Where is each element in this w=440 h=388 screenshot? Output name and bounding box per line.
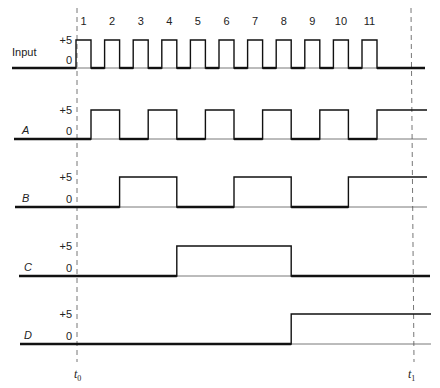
signals: Input+50A+50B+50C+50D+50: [12, 34, 431, 344]
signal-a: A+50: [14, 104, 427, 139]
level-high-label: +5: [59, 308, 72, 320]
pulse-number-3: 3: [138, 15, 144, 27]
pulse-number-1: 1: [80, 15, 86, 27]
pulse-number-11: 11: [364, 15, 375, 27]
timing-diagram: t0t1 1234567891011 Input+50A+50B+50C+50D…: [0, 0, 440, 388]
level-high-label: +5: [59, 34, 72, 46]
pulse-number-4: 4: [166, 15, 172, 27]
signal-d: D+50: [20, 308, 431, 344]
pulse-number-9: 9: [309, 15, 315, 27]
level-high-label: +5: [59, 104, 72, 116]
pulse-number-5: 5: [195, 15, 201, 27]
time-markers: t0t1: [74, 8, 415, 383]
level-low-label: 0: [66, 262, 72, 274]
level-low-label: 0: [66, 54, 72, 66]
signal-label: A: [21, 124, 29, 136]
t1-marker-line: [411, 8, 414, 362]
level-high-label: +5: [59, 171, 72, 183]
signal-label: B: [22, 192, 29, 204]
t0-label: t0: [74, 367, 81, 383]
signal-label: C: [24, 261, 32, 273]
waveform: [20, 314, 431, 344]
pulse-number-6: 6: [223, 15, 229, 27]
pulse-number-8: 8: [281, 15, 287, 27]
pulse-number-7: 7: [252, 15, 258, 27]
level-high-label: +5: [59, 240, 72, 252]
pulse-numbers: 1234567891011: [80, 15, 375, 27]
level-low-label: 0: [66, 125, 72, 137]
waveform: [14, 110, 427, 139]
signal-c: C+50: [19, 240, 430, 276]
pulse-number-10: 10: [335, 15, 347, 27]
pulse-number-2: 2: [109, 15, 115, 27]
level-low-label: 0: [66, 193, 72, 205]
t1-label: t1: [408, 367, 415, 383]
level-low-label: 0: [66, 330, 72, 342]
waveform: [19, 246, 430, 276]
signal-input: Input+50: [12, 34, 425, 68]
signal-label: D: [24, 329, 32, 341]
waveform: [12, 40, 425, 68]
signal-label: Input: [12, 46, 36, 58]
